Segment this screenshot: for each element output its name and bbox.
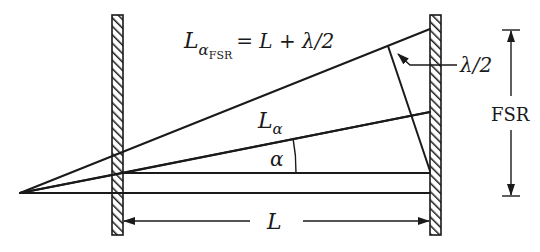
right-mirror: [430, 15, 441, 235]
fsr-label: FSR: [491, 104, 530, 125]
alpha-ray-label: Lα: [257, 108, 283, 138]
etalon-diagram: LαFSR= L + λ/2 Lα α λ/2 FSR L: [0, 0, 540, 252]
fsr-ray-label: LαFSR= L + λ/2: [183, 28, 334, 62]
angle-label: α: [270, 147, 284, 171]
spacing-label: L: [266, 209, 282, 234]
half-wavelength-label: λ/2: [459, 53, 492, 77]
angle-arc: [293, 138, 296, 173]
half-wavelength-leader: [398, 54, 457, 65]
left-mirror: [112, 15, 123, 235]
